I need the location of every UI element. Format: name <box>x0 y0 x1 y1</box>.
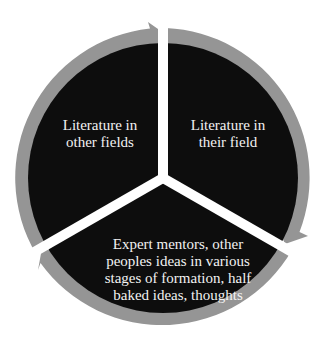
segment-label-right-line-2: their field <box>178 134 278 151</box>
segment-label-right: Literature in their field <box>178 117 278 151</box>
segment-label-bottom: Expert mentors, other peoples ideas in v… <box>88 236 268 304</box>
segment-label-left-line-1: Literature in <box>50 117 150 134</box>
segment-label-bottom-line-4: baked ideas, thoughts <box>88 287 268 304</box>
segment-label-left-line-2: other fields <box>50 134 150 151</box>
segment-label-bottom-line-2: peoples ideas in various <box>88 253 268 270</box>
segment-label-bottom-line-1: Expert mentors, other <box>88 236 268 253</box>
segment-label-right-line-1: Literature in <box>178 117 278 134</box>
segment-label-bottom-line-3: stages of formation, half <box>88 270 268 287</box>
segment-label-left: Literature in other fields <box>50 117 150 151</box>
